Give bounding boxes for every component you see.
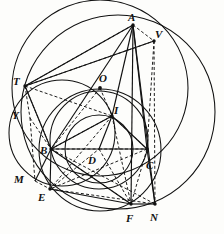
point-label-B: B: [40, 145, 47, 156]
geometry-figure: AVTOYIBDCMEFN: [0, 0, 224, 234]
vertex-dot-A: [131, 23, 134, 26]
solid-segment-TA: [25, 25, 133, 86]
point-label-F: F: [126, 213, 133, 224]
dashed-segment-AV: [133, 25, 154, 41]
geometry-canvas: [0, 0, 224, 234]
dashed-segment-VC: [147, 41, 154, 149]
vertex-dot-N: [153, 202, 156, 205]
point-label-C: C: [146, 160, 153, 171]
vertex-dot-E: [48, 187, 51, 190]
point-label-Y: Y: [12, 110, 19, 121]
solid-segment-AF: [131, 25, 133, 204]
dashed-segment-YM: [30, 118, 35, 181]
point-label-A: A: [128, 12, 135, 23]
solid-segment-AB: [51, 25, 133, 149]
point-label-E: E: [38, 192, 45, 203]
solid-segment-CI: [112, 116, 147, 149]
circle-group: [9, 0, 215, 211]
solid-segment-TV: [25, 41, 154, 86]
vertex-dot-T: [23, 84, 26, 87]
solid-segment-group: [25, 25, 155, 204]
point-label-M: M: [14, 174, 24, 185]
point-label-I: I: [114, 105, 118, 116]
point-label-D: D: [88, 155, 96, 166]
solid-segment-EF: [50, 189, 131, 204]
point-label-O: O: [99, 73, 107, 84]
vertex-dot-C: [145, 147, 148, 150]
vertex-dot-B: [49, 147, 52, 150]
solid-segment-BE: [50, 149, 51, 189]
solid-segment-BI: [51, 116, 112, 149]
solid-segment-ID: [99, 116, 112, 149]
point-label-N: N: [150, 212, 158, 223]
vertex-dot-F: [129, 202, 132, 205]
vertex-dot-O: [98, 86, 102, 90]
solid-segment-AN: [133, 25, 155, 204]
point-label-V: V: [155, 29, 162, 40]
point-label-T: T: [13, 76, 20, 87]
